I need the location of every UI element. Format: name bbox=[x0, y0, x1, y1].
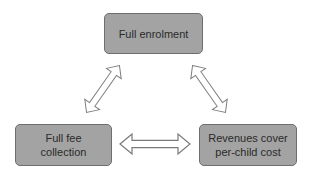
double-arrow-icon-top-right bbox=[185, 60, 233, 117]
double-arrow-icon-left-right bbox=[120, 134, 190, 154]
arrows-layer bbox=[0, 0, 311, 176]
double-arrow-icon-top-left bbox=[79, 60, 127, 117]
